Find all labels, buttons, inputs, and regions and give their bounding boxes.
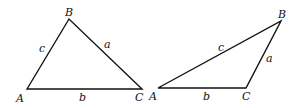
vertex-label-b: B: [277, 8, 286, 21]
side-label-c: c: [218, 41, 224, 54]
side-label-b: b: [79, 91, 86, 104]
vertex-label-b: B: [64, 6, 73, 19]
vertex-label-a: A: [15, 92, 24, 105]
vertex-label-a: A: [148, 90, 157, 103]
vertex-label-c: C: [242, 90, 251, 103]
side-label-b: b: [203, 90, 210, 103]
triangle-diagram: A B C c a b A B C c a b: [0, 0, 300, 108]
side-label-c: c: [39, 42, 45, 55]
side-label-a: a: [104, 38, 111, 51]
vertex-label-c: C: [135, 91, 144, 104]
side-label-a: a: [266, 52, 273, 65]
triangle-2-outline: [158, 21, 281, 88]
obtuse-triangle: A B C c a b: [148, 8, 286, 103]
acute-triangle: A B C c a b: [15, 6, 144, 105]
